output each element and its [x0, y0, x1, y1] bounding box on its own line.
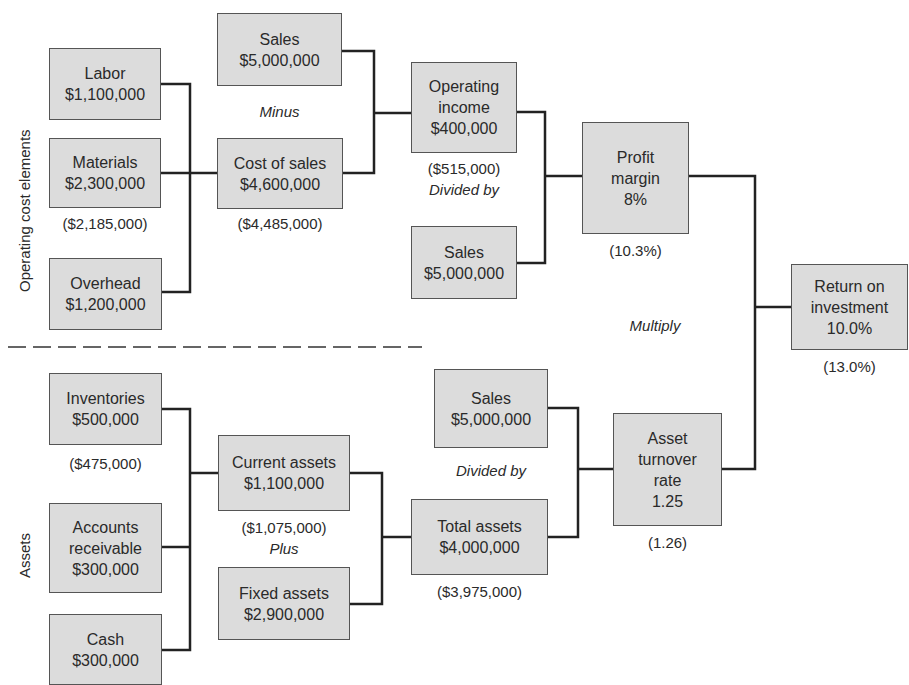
operating-income-label-1: Operating: [429, 76, 499, 97]
overhead-value: $1,200,000: [65, 294, 145, 315]
materials-box: Materials $2,300,000: [49, 138, 161, 208]
fixed-assets-box: Fixed assets $2,900,000: [218, 567, 350, 640]
cost-of-sales-note: ($4,485,000): [217, 215, 343, 232]
asset-turnover-box: Asset turnover rate 1.25: [613, 413, 722, 526]
current-assets-box: Current assets $1,100,000: [218, 435, 350, 511]
section-label-operating-cost: Operating cost elements: [16, 129, 33, 292]
profit-margin-box: Profit margin 8%: [582, 122, 689, 234]
operating-income-value: $400,000: [431, 118, 498, 139]
sales-mid-value: $5,000,000: [424, 263, 504, 284]
sales-top-box: Sales $5,000,000: [217, 13, 342, 86]
inventories-value: $500,000: [72, 409, 139, 430]
operating-income-note: ($515,000): [411, 160, 517, 177]
inventories-box: Inventories $500,000: [49, 373, 162, 445]
asset-turnover-label-3: rate: [654, 470, 682, 491]
materials-note: ($2,185,000): [49, 215, 161, 232]
overhead-box: Overhead $1,200,000: [49, 258, 162, 330]
total-assets-value: $4,000,000: [439, 537, 519, 558]
current-assets-note: ($1,075,000): [218, 519, 350, 536]
inventories-note: ($475,000): [49, 455, 162, 472]
materials-label: Materials: [73, 152, 138, 173]
profit-margin-label-1: Profit: [617, 147, 654, 168]
sales-bottom-label: Sales: [471, 388, 511, 409]
profit-margin-note: (10.3%): [582, 242, 689, 259]
fixed-assets-label: Fixed assets: [239, 583, 329, 604]
sales-bottom-box: Sales $5,000,000: [434, 369, 548, 448]
overhead-label: Overhead: [70, 273, 140, 294]
cash-value: $300,000: [72, 650, 139, 671]
operator-plus: Plus: [218, 540, 350, 557]
roi-label-1: Return on: [814, 276, 884, 297]
fixed-assets-value: $2,900,000: [244, 604, 324, 625]
sales-top-value: $5,000,000: [239, 50, 319, 71]
inventories-label: Inventories: [66, 388, 144, 409]
cash-box: Cash $300,000: [49, 614, 162, 685]
operator-multiply: Multiply: [600, 317, 710, 334]
materials-value: $2,300,000: [65, 173, 145, 194]
profit-margin-label-2: margin: [611, 168, 660, 189]
sales-bottom-value: $5,000,000: [451, 409, 531, 430]
operating-income-box: Operating income $400,000: [411, 62, 517, 153]
total-assets-box: Total assets $4,000,000: [411, 499, 548, 575]
roi-box: Return on investment 10.0%: [791, 264, 908, 350]
roi-label-2: investment: [811, 297, 888, 318]
cost-of-sales-label: Cost of sales: [234, 153, 326, 174]
labor-label: Labor: [85, 63, 126, 84]
asset-turnover-label-1: Asset: [647, 428, 687, 449]
cost-of-sales-value: $4,600,000: [240, 174, 320, 195]
sales-mid-box: Sales $5,000,000: [411, 226, 517, 299]
accounts-receivable-label-2: receivable: [69, 538, 142, 559]
operator-minus: Minus: [217, 103, 342, 120]
total-assets-label: Total assets: [437, 516, 521, 537]
labor-value: $1,100,000: [65, 84, 145, 105]
cash-label: Cash: [87, 629, 124, 650]
accounts-receivable-label-1: Accounts: [73, 517, 139, 538]
asset-turnover-label-2: turnover: [638, 449, 697, 470]
accounts-receivable-box: Accounts receivable $300,000: [49, 503, 162, 593]
asset-turnover-value: 1.25: [652, 491, 683, 512]
current-assets-value: $1,100,000: [244, 473, 324, 494]
operating-income-label-2: income: [438, 97, 490, 118]
current-assets-label: Current assets: [232, 452, 336, 473]
roi-value: 10.0%: [827, 318, 872, 339]
operator-divided-by-top: Divided by: [411, 181, 517, 198]
section-label-assets: Assets: [16, 533, 33, 578]
labor-box: Labor $1,100,000: [49, 48, 161, 120]
total-assets-note: ($3,975,000): [411, 583, 548, 600]
asset-turnover-note: (1.26): [613, 534, 722, 551]
operator-divided-by-bottom: Divided by: [434, 462, 548, 479]
cost-of-sales-box: Cost of sales $4,600,000: [217, 138, 343, 209]
roi-note: (13.0%): [791, 358, 908, 375]
accounts-receivable-value: $300,000: [72, 559, 139, 580]
sales-top-label: Sales: [259, 29, 299, 50]
sales-mid-label: Sales: [444, 242, 484, 263]
profit-margin-value: 8%: [624, 189, 647, 210]
